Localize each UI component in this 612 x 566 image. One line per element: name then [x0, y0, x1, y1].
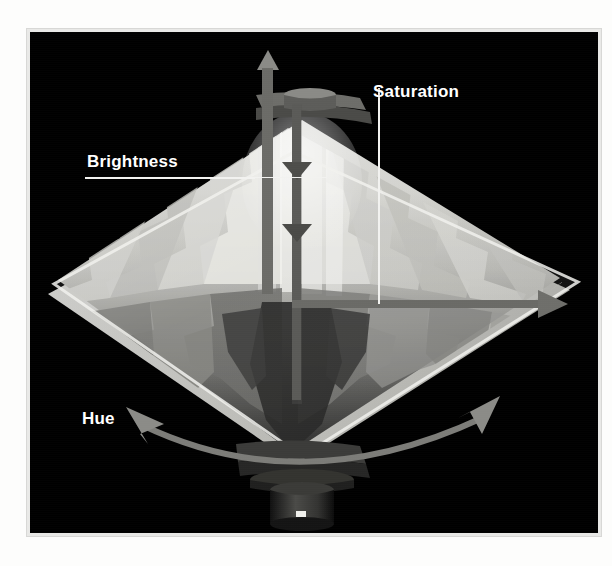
axis-arrows-overlay	[30, 32, 598, 533]
brightness-axis-arrow	[257, 50, 312, 404]
saturation-label: Saturation	[373, 82, 459, 102]
hue-curved-arrows	[126, 396, 500, 462]
brightness-leader-line	[85, 177, 327, 178]
saturation-leader-line	[378, 88, 380, 304]
hue-label: Hue	[82, 409, 115, 429]
figure-plate: Saturation Brightness Hue	[30, 32, 598, 533]
brightness-label: Brightness	[87, 152, 178, 172]
saturation-axis-arrow	[292, 290, 568, 318]
figure-page: Saturation Brightness Hue	[0, 0, 612, 566]
